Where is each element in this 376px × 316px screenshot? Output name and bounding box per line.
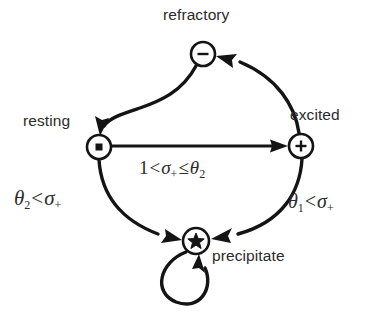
label-lhs: θ — [14, 186, 24, 210]
label-lhs: 1 — [139, 157, 149, 178]
arrowhead-icon — [161, 229, 182, 243]
edge-label-resting-to-precipitate: θ2<σ+ — [14, 186, 61, 213]
label-symbol: σ — [161, 157, 170, 178]
label-relation-1: < — [30, 186, 44, 210]
label-lhs: θ — [288, 190, 298, 212]
arrowhead-icon — [270, 140, 288, 153]
arrowhead-icon — [216, 54, 237, 68]
node-precipitate[interactable] — [183, 228, 209, 254]
edge-line — [162, 252, 208, 304]
node-label-resting: resting — [23, 112, 70, 130]
dot-icon — [96, 144, 102, 150]
edge-line — [104, 66, 196, 126]
label-lhs-subscript: 1 — [298, 201, 304, 215]
label-symbol: σ — [44, 186, 54, 210]
label-relation-2: ≤ — [177, 157, 189, 178]
node-resting[interactable] — [87, 135, 111, 159]
label-relation-1: < — [149, 157, 162, 178]
edge-excited-to-refractory — [216, 54, 299, 133]
edge-resting-to-excited — [112, 140, 288, 153]
node-excited[interactable] — [289, 134, 313, 158]
arrowhead-icon — [192, 254, 205, 273]
state-diagram: refractory resting excited precipitate 1… — [0, 0, 376, 316]
node-label-precipitate: precipitate — [212, 247, 285, 265]
node-label-refractory: refractory — [163, 6, 229, 24]
arrowhead-icon — [211, 228, 232, 243]
label-symbol-subscript: + — [55, 198, 62, 212]
node-label-excited: excited — [290, 106, 340, 124]
label-rhs: θ — [190, 157, 199, 178]
edge-precipitate-self-loop — [162, 252, 208, 304]
edge-refractory-to-resting — [95, 66, 196, 136]
label-symbol: σ — [317, 190, 327, 212]
label-symbol-subscript: + — [327, 201, 334, 215]
node-refractory[interactable] — [191, 42, 215, 66]
arrowhead-icon — [95, 116, 109, 136]
label-relation-1: < — [304, 190, 317, 212]
label-rhs-subscript: 2 — [199, 167, 205, 181]
edge-label-resting-to-excited: 1<σ+≤θ2 — [139, 157, 205, 182]
edge-label-excited-to-precipitate: θ1<σ+ — [288, 190, 334, 216]
